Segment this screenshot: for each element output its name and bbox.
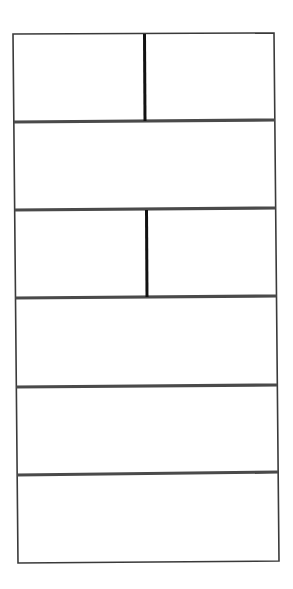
- row-divider-2: [15, 208, 276, 210]
- column-divider-1: [145, 34, 146, 121]
- column-divider-2: [147, 210, 148, 297]
- panel-layout-diagram: [0, 0, 293, 589]
- row-divider-4: [16, 385, 277, 387]
- diagram-canvas: [0, 0, 293, 589]
